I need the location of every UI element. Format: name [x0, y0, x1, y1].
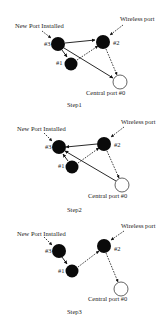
node-1	[66, 265, 79, 278]
wireless-port-label: Wireless port	[121, 118, 156, 125]
node-1-label: #1	[58, 267, 65, 274]
step-3-panel: New Port Installed Wireless port #3 #1 #…	[17, 222, 156, 315]
step-1-title: Step1	[67, 101, 82, 108]
edges	[44, 127, 124, 181]
wireless-pointer	[111, 231, 124, 240]
node-3	[52, 244, 66, 258]
new-port-label: New Port Installed	[15, 22, 64, 29]
central-port-label: Central port #0	[86, 89, 125, 96]
node-2-label: #2	[114, 141, 121, 148]
node-2	[97, 239, 111, 253]
step-3-title: Step3	[67, 308, 82, 315]
edge-1-to-3	[63, 154, 68, 161]
edge-1-to-2	[78, 148, 99, 163]
node-2	[97, 137, 111, 151]
new-port-pointer	[44, 237, 52, 245]
node-3	[52, 140, 66, 154]
new-port-label: New Port Installed	[17, 230, 66, 237]
node-3-label: #3	[45, 143, 52, 150]
new-port-label: New Port Installed	[17, 125, 66, 132]
node-3-label: #3	[45, 247, 52, 254]
node-3	[51, 37, 65, 51]
node-1	[66, 161, 79, 174]
edge-3-to-2	[65, 40, 95, 43]
edge-1-to-2	[77, 46, 98, 60]
edge-2-to-0	[107, 151, 119, 178]
node-1	[65, 58, 78, 71]
edge-2-to-0	[106, 49, 117, 75]
node-2-label: #2	[113, 39, 120, 46]
wireless-pointer	[111, 127, 124, 137]
edge-3-to-1	[62, 257, 67, 264]
network-diagram: New Port Installed Wireless port #3 #1 #…	[0, 0, 168, 333]
step-1-panel: New Port Installed Wireless port #3 #1 #…	[15, 15, 155, 108]
central-port-node	[114, 282, 128, 296]
wireless-pointer	[110, 25, 123, 35]
edge-3-to-1	[62, 50, 67, 57]
step-2-panel: New Port Installed Wireless port #3 #1 #…	[17, 118, 156, 213]
central-port-label: Central port #0	[88, 192, 127, 199]
node-2	[96, 35, 110, 49]
edge-2-to-0	[106, 253, 118, 282]
node-1-label: #1	[58, 162, 65, 169]
edges	[42, 25, 123, 78]
node-2-label: #2	[114, 245, 121, 252]
new-port-pointer	[42, 31, 51, 38]
new-port-pointer	[44, 133, 52, 141]
central-port-node	[115, 178, 129, 192]
central-port-node	[113, 75, 127, 89]
wireless-port-label: Wireless port	[120, 15, 155, 22]
step-2-title: Step2	[67, 206, 82, 213]
node-3-label: #3	[44, 40, 51, 47]
edge-2-to-3	[66, 144, 97, 147]
wireless-port-label: Wireless port	[121, 222, 156, 229]
node-1-label: #1	[56, 59, 63, 66]
central-port-label: Central port #0	[88, 295, 127, 302]
edge-1-to-2	[78, 251, 99, 267]
